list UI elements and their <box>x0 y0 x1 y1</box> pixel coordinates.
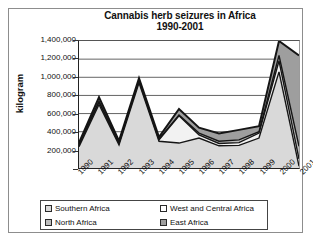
y-axis-tick-mark <box>73 77 78 78</box>
legend-item-west-and-central-africa[interactable]: West and Central Africa <box>160 202 273 216</box>
legend-label: West and Central Africa <box>170 204 254 213</box>
legend-label: Southern Africa <box>55 204 110 213</box>
legend-item-north-africa[interactable]: North Africa <box>45 216 160 230</box>
plot-area <box>78 40 300 169</box>
y-axis-tick-label: - <box>20 165 76 173</box>
y-axis-tick-mark <box>73 114 78 115</box>
y-axis-tick-mark <box>73 151 78 152</box>
legend-item-southern-africa[interactable]: Southern Africa <box>45 202 160 216</box>
y-axis-tick-label: 600,000 <box>20 110 76 118</box>
y-axis-tick-label: 400,000 <box>20 128 76 136</box>
y-axis-tick-mark <box>73 132 78 133</box>
chart-screenshot: Cannabis herb seizures in Africa 1990-20… <box>0 0 313 241</box>
y-axis-tick-label: 1,400,000 <box>20 36 76 44</box>
y-axis-tick-label: 1,000,000 <box>20 73 76 81</box>
y-axis-tick-label: 1,200,000 <box>20 54 76 62</box>
legend-label: North Africa <box>55 218 97 227</box>
legend-item-east-africa[interactable]: East Africa <box>160 216 273 230</box>
y-axis-tick-label: 800,000 <box>20 91 76 99</box>
chart-title: Cannabis herb seizures in Africa 1990-20… <box>60 10 300 32</box>
legend-swatch-icon <box>45 205 52 212</box>
y-axis-tick-mark <box>73 95 78 96</box>
chart-title-line1: Cannabis herb seizures in Africa <box>104 10 255 21</box>
stacked-area-plot <box>79 41 299 168</box>
y-axis-tick-mark <box>73 58 78 59</box>
legend-label: East Africa <box>170 218 208 227</box>
legend-swatch-icon <box>45 219 52 226</box>
legend-swatch-icon <box>160 205 167 212</box>
chart-legend: Southern Africa West and Central Africa … <box>40 200 268 230</box>
y-axis-tick-mark <box>73 40 78 41</box>
y-axis-tick-label: 200,000 <box>20 147 76 155</box>
y-axis-tick-mark <box>73 169 78 170</box>
legend-swatch-icon <box>160 219 167 226</box>
chart-title-line2: 1990-2001 <box>60 21 300 32</box>
